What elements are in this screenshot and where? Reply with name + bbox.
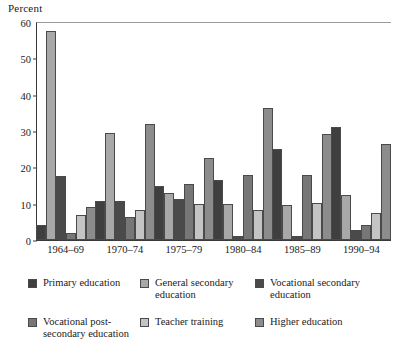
bar[interactable]	[253, 210, 263, 240]
bar[interactable]	[36, 225, 46, 240]
bar[interactable]	[174, 199, 184, 240]
legend-item[interactable]: Higher education	[255, 316, 385, 341]
bar[interactable]	[194, 204, 204, 240]
x-axis-tick-label: 1980–84	[225, 244, 262, 255]
bar[interactable]	[312, 203, 322, 240]
bar[interactable]	[56, 176, 66, 240]
legend-item-label: Teacher training	[155, 316, 223, 328]
bar[interactable]	[66, 233, 76, 240]
legend-item[interactable]: Primary education	[28, 277, 140, 302]
legend-item-label: Vocational secondary education	[270, 277, 360, 302]
bar[interactable]	[361, 225, 371, 240]
legend-item[interactable]: Teacher training	[140, 316, 255, 341]
legend-swatch-icon	[255, 279, 264, 288]
legend-swatch-icon	[255, 318, 264, 327]
legend-item[interactable]: Vocational secondary education	[255, 277, 385, 302]
bar-group	[36, 22, 96, 240]
legend-swatch-icon	[140, 318, 149, 327]
bar[interactable]	[135, 210, 145, 240]
bar-group	[154, 22, 214, 240]
bar[interactable]	[76, 215, 86, 240]
x-axis-tick-label: 1964–69	[47, 244, 84, 255]
legend-swatch-icon	[28, 318, 37, 327]
legend-item-label: Vocational post- secondary education	[43, 316, 129, 341]
bar[interactable]	[381, 144, 391, 240]
bar[interactable]	[46, 31, 56, 240]
legend-item[interactable]: Vocational post- secondary education	[28, 316, 140, 341]
x-axis-tick-label: 1970–74	[106, 244, 143, 255]
bar[interactable]	[125, 217, 135, 240]
legend-item-label: Higher education	[270, 316, 343, 328]
bar[interactable]	[371, 213, 381, 240]
bars-container	[36, 22, 391, 240]
bar[interactable]	[95, 201, 105, 240]
bar[interactable]	[105, 133, 115, 240]
bar-group	[331, 22, 391, 240]
bar[interactable]	[164, 193, 174, 240]
x-axis-tick-label: 1985–89	[284, 244, 321, 255]
legend-swatch-icon	[28, 279, 37, 288]
x-axis-line	[36, 240, 391, 241]
bar[interactable]	[115, 201, 125, 240]
y-axis-title: Percent	[8, 2, 42, 14]
x-axis-tick-label: 1990–94	[343, 244, 380, 255]
bar[interactable]	[351, 230, 361, 240]
bar[interactable]	[292, 236, 302, 240]
bar[interactable]	[302, 175, 312, 240]
bar[interactable]	[272, 149, 282, 240]
legend-item[interactable]: General secondary education	[140, 277, 255, 302]
bar[interactable]	[243, 175, 253, 240]
bar-group	[213, 22, 273, 240]
bar[interactable]	[282, 205, 292, 240]
bar[interactable]	[213, 180, 223, 240]
chart-legend: Primary educationGeneral secondary educa…	[28, 277, 393, 341]
y-axis-tick-label: 60	[21, 18, 38, 29]
bar-group	[272, 22, 332, 240]
bar[interactable]	[154, 186, 164, 240]
legend-swatch-icon	[140, 279, 149, 288]
bar[interactable]	[341, 195, 351, 240]
legend-item-label: Primary education	[43, 277, 120, 289]
bar[interactable]	[223, 204, 233, 240]
bar-group	[95, 22, 155, 240]
legend-item-label: General secondary education	[155, 277, 233, 302]
bar[interactable]	[331, 127, 341, 240]
bar[interactable]	[184, 184, 194, 240]
bar[interactable]	[233, 236, 243, 240]
x-axis-tick-label: 1975–79	[166, 244, 203, 255]
